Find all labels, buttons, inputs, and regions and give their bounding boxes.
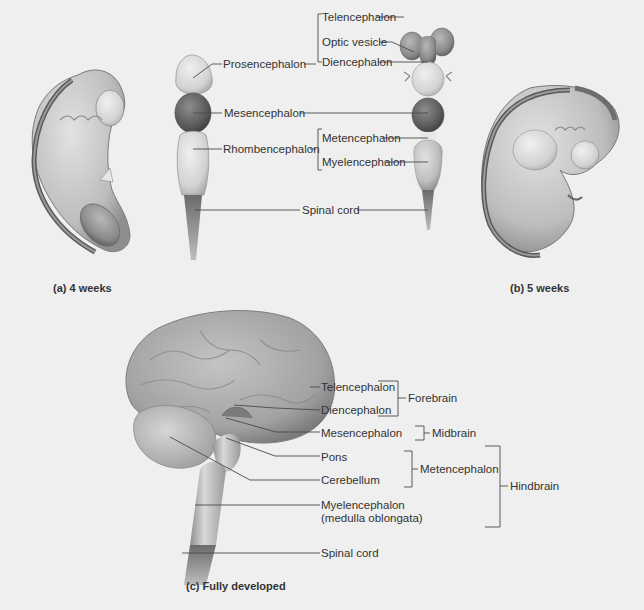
label-myelencephalon-embryo: Myelencephalon xyxy=(322,156,406,169)
label-rhombencephalon: Rhombencephalon xyxy=(223,143,320,156)
label-myelencephalon-adult: Myelencephalon xyxy=(321,499,405,512)
embryo-4-weeks xyxy=(32,70,130,254)
label-spinal-cord-adult: Spinal cord xyxy=(321,547,379,560)
neural-tube-5-weeks xyxy=(400,28,454,230)
label-prosencephalon: Prosencephalon xyxy=(223,58,306,71)
label-pons: Pons xyxy=(321,451,347,464)
label-spinal-cord-embryo: Spinal cord xyxy=(302,204,360,217)
label-telencephalon-embryo: Telencephalon xyxy=(322,11,396,24)
caption-c: (c) Fully developed xyxy=(186,580,286,592)
adult-brain xyxy=(126,311,335,585)
group-forebrain: Forebrain xyxy=(408,392,457,405)
label-metencephalon-embryo: Metencephalon xyxy=(322,132,401,145)
caption-b: (b) 5 weeks xyxy=(510,282,569,294)
group-hindbrain: Hindbrain xyxy=(510,480,559,493)
group-metencephalon: Metencephalon xyxy=(420,463,499,476)
embryo-5-weeks xyxy=(482,86,619,256)
label-diencephalon-embryo: Diencephalon xyxy=(322,56,392,69)
label-medulla-oblongata: (medulla oblongata) xyxy=(321,512,423,525)
label-mesencephalon: Mesencephalon xyxy=(224,107,305,120)
label-cerebellum: Cerebellum xyxy=(321,474,380,487)
caption-a: (a) 4 weeks xyxy=(53,282,112,294)
label-mesencephalon-adult: Mesencephalon xyxy=(321,427,402,440)
brain-development-figure: Prosencephalon Mesencephalon Rhombenceph… xyxy=(0,0,644,610)
group-midbrain: Midbrain xyxy=(432,427,476,440)
neural-tube-4-weeks xyxy=(175,55,212,260)
label-telencephalon-adult: Telencephalon xyxy=(321,381,395,394)
label-diencephalon-adult: Diencephalon xyxy=(321,404,391,417)
label-optic-vesicle: Optic vesicle xyxy=(322,36,387,49)
